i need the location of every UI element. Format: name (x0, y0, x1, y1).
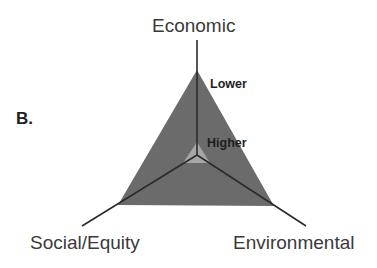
higher-level-label: Higher (207, 137, 247, 150)
social-equity-axis-label: Social/Equity (30, 233, 140, 252)
outer-triangle (118, 70, 274, 206)
environmental-axis-label: Environmental (233, 233, 354, 252)
triangle-diagram (0, 0, 377, 268)
lower-level-label: Lower (210, 78, 247, 91)
economic-axis-label: Economic (152, 16, 235, 35)
panel-label: B. (16, 110, 33, 127)
